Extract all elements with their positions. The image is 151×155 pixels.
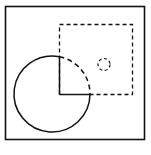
large-circle-dashed-arc xyxy=(59,57,90,94)
small-dashed-circle xyxy=(98,59,110,71)
diagram-canvas xyxy=(0,0,151,155)
dashed-rectangle xyxy=(60,25,133,95)
outer-frame xyxy=(6,7,145,140)
